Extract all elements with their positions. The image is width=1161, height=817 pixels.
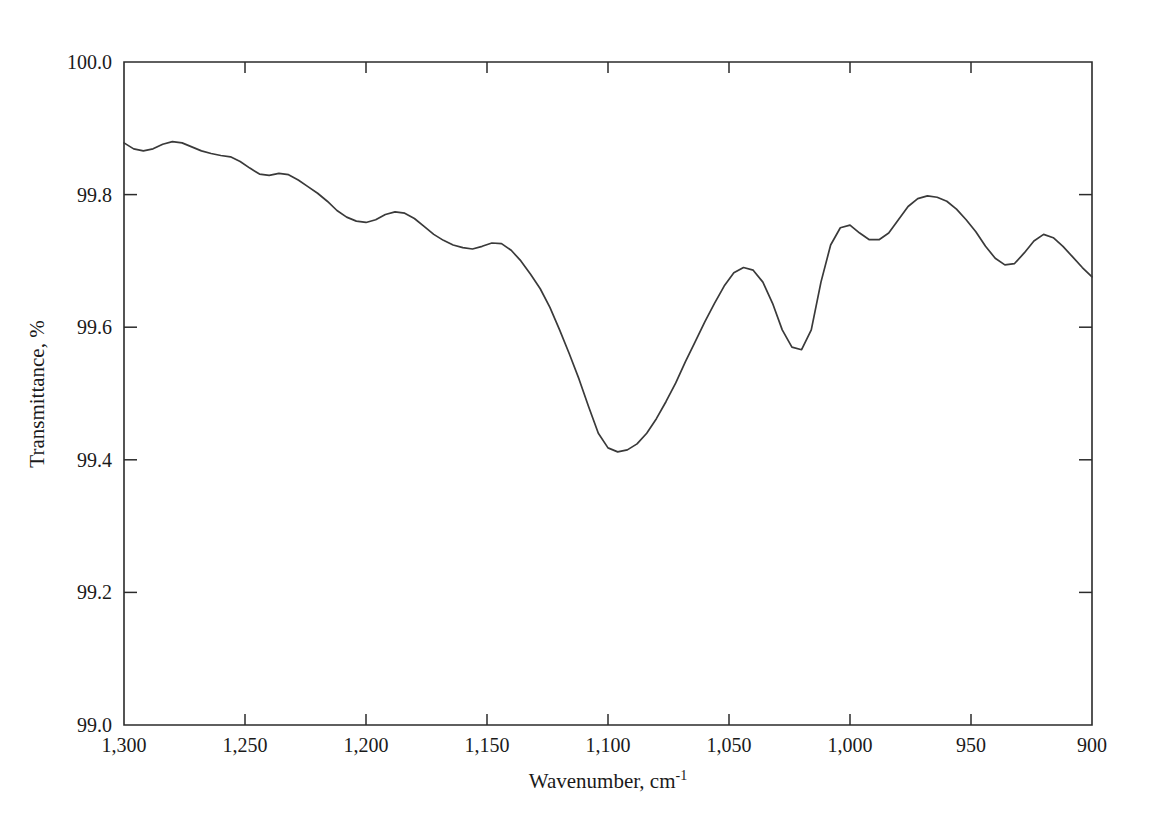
y-tick-label: 99.4 <box>77 449 112 471</box>
y-axis-title: Transmittance, % <box>25 320 49 467</box>
y-tick-label: 99.6 <box>77 316 112 338</box>
y-tick-label: 99.0 <box>77 714 112 736</box>
y-tick-label: 100.0 <box>67 51 112 73</box>
x-axis-ticks-bottom <box>245 714 971 725</box>
x-axis-tick-labels: 1,3001,2501,2001,1501,1001,0501,00095090… <box>102 734 1108 756</box>
x-tick-label: 1,100 <box>586 734 631 756</box>
transmittance-curve <box>124 142 1092 452</box>
y-axis-tick-labels: 99.099.299.499.699.8100.0 <box>67 51 112 736</box>
chart-canvas: 1,3001,2501,2001,1501,1001,0501,00095090… <box>0 0 1161 817</box>
x-tick-label: 1,000 <box>828 734 873 756</box>
plot-frame <box>124 62 1092 725</box>
y-tick-label: 99.8 <box>77 184 112 206</box>
x-axis-title: Wavenumber, cm-1 <box>529 768 687 793</box>
x-tick-label: 1,200 <box>344 734 389 756</box>
y-axis-ticks-right <box>1079 195 1092 593</box>
x-tick-label: 1,300 <box>102 734 147 756</box>
x-tick-label: 1,150 <box>465 734 510 756</box>
x-tick-label: 1,050 <box>707 734 752 756</box>
y-axis-ticks-left <box>124 195 137 593</box>
x-axis-ticks-top <box>245 62 971 73</box>
x-tick-label: 950 <box>956 734 986 756</box>
x-tick-label: 900 <box>1077 734 1107 756</box>
x-tick-label: 1,250 <box>223 734 268 756</box>
x-axis-title-superscript: -1 <box>676 768 688 783</box>
ftir-spectrum-figure: 1,3001,2501,2001,1501,1001,0501,00095090… <box>0 0 1161 817</box>
y-tick-label: 99.2 <box>77 581 112 603</box>
